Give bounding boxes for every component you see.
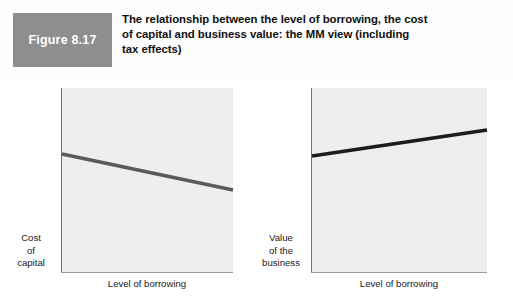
figure-number-label: Figure 8.17: [28, 33, 96, 47]
y-axis-label-line-3: capital: [6, 257, 56, 270]
y-axis-label-line-1: Cost: [6, 232, 56, 245]
chart-cost-of-capital: Cost of capital Level of borrowing: [0, 80, 256, 303]
x-axis-line-cost-of-capital: [61, 272, 233, 273]
figure-title-line-2: of capital and business value: the MM vi…: [122, 27, 502, 42]
figure-title: The relationship between the level of bo…: [122, 12, 502, 58]
y-axis-line-cost-of-capital: [61, 88, 62, 272]
chart-business-value: Value of the business Level of borrowing: [256, 80, 513, 303]
plot-area-cost-of-capital: [62, 88, 233, 272]
y-axis-label-line-2: of: [6, 245, 56, 258]
y-axis-line-business-value: [311, 88, 312, 272]
x-axis-line-business-value: [311, 272, 487, 273]
y-axis-label-business-value: Value of the business: [254, 232, 308, 270]
figure-container: Figure 8.17 The relationship between the…: [0, 0, 513, 303]
figure-title-line-1: The relationship between the level of bo…: [122, 12, 502, 27]
y-axis-label-line-3: business: [254, 257, 308, 270]
figure-title-line-3: tax effects): [122, 42, 502, 57]
y-axis-label-line-2: of the: [254, 245, 308, 258]
figure-header: Figure 8.17 The relationship between the…: [0, 0, 513, 80]
plot-area-business-value: [312, 88, 487, 272]
y-axis-label-cost-of-capital: Cost of capital: [6, 232, 56, 270]
y-axis-label-line-1: Value: [254, 232, 308, 245]
x-axis-label-business-value: Level of borrowing: [311, 278, 487, 289]
charts-area: Cost of capital Level of borrowing Value…: [0, 80, 513, 303]
figure-number-badge: Figure 8.17: [13, 13, 112, 67]
x-axis-label-cost-of-capital: Level of borrowing: [61, 278, 233, 289]
